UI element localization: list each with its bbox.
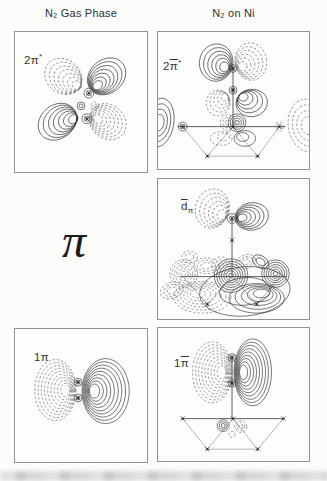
label-text: 1π — [34, 351, 49, 363]
label-text: 2 — [163, 60, 170, 72]
label-text: 1 — [174, 357, 181, 369]
label-overbar-text: π — [181, 357, 189, 369]
orbital-label-2pi-star-gas: 2π* — [24, 54, 42, 66]
column-title-on-ni: N₂ on Ni — [157, 7, 310, 19]
contour-plot-1pi-ni — [158, 328, 309, 461]
panel-2pi-star-ni: 2π* — [157, 31, 310, 170]
panel-1pi-gas: 1π — [14, 328, 148, 463]
panel-d-pi-ni: dπ — [157, 178, 310, 320]
column-title-gas-phase: N₂ Gas Phase — [14, 7, 148, 19]
orbital-label-1pi-ni: 1π — [174, 357, 189, 369]
orbital-label-d-pi-ni: dπ — [181, 200, 194, 212]
contour-plot-2pi-star-ni — [158, 32, 309, 169]
label-superscript: * — [178, 58, 181, 67]
orbital-label-2pi-star-ni: 2π* — [163, 60, 181, 72]
figure-page: N₂ Gas Phase N₂ on Ni 2π* 2π* dπ π 1π 1π — [0, 0, 327, 481]
orbital-symbol-pi: π — [44, 210, 104, 272]
panel-1pi-ni: 1π — [157, 327, 310, 462]
panel-2pi-star-gas: 2π* — [14, 31, 148, 173]
label-overbar-text: d — [181, 200, 188, 212]
label-text: 2π — [24, 54, 39, 66]
orbital-label-1pi-gas: 1π — [34, 351, 49, 363]
label-superscript: * — [39, 52, 42, 61]
label-subscript: π — [188, 206, 194, 215]
contour-plot-1pi-gas — [15, 329, 147, 462]
scan-artifact-blur-band — [0, 471, 327, 481]
contour-plot-2pi-star-gas — [15, 32, 147, 172]
label-overbar-text: π — [170, 60, 178, 72]
